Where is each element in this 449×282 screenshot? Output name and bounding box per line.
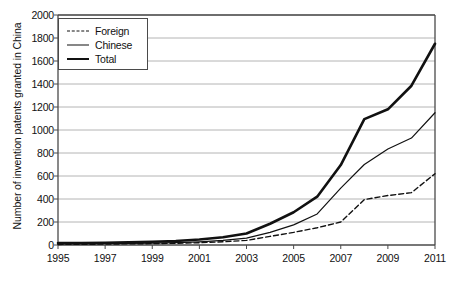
legend-line-chinese-icon	[67, 40, 89, 50]
x-tick-label: 1997	[83, 252, 127, 264]
x-tick-label: 2011	[413, 252, 449, 264]
x-tick-label: 2007	[319, 252, 363, 264]
legend-item-chinese: Chinese	[67, 38, 147, 52]
legend-item-foreign: Foreign	[67, 24, 147, 38]
legend-line-foreign-icon	[67, 26, 89, 36]
legend-label-total: Total	[89, 53, 116, 65]
chart-container: Number of invention patents granted in C…	[0, 0, 449, 282]
chart-legend: Foreign Chinese Total	[58, 18, 148, 70]
legend-label-chinese: Chinese	[89, 39, 132, 51]
x-tick-label: 1995	[36, 252, 80, 264]
x-tick-label: 1999	[130, 252, 174, 264]
x-tick-label: 2009	[366, 252, 410, 264]
x-tick-label: 2001	[177, 252, 221, 264]
legend-label-foreign: Foreign	[89, 25, 129, 37]
legend-line-total-icon	[67, 54, 89, 64]
legend-item-total: Total	[67, 52, 147, 66]
series-line-chinese	[58, 113, 435, 244]
series-line-total	[58, 44, 435, 243]
x-tick-label: 2005	[272, 252, 316, 264]
data-series	[58, 44, 435, 245]
x-tick-label: 2003	[225, 252, 269, 264]
